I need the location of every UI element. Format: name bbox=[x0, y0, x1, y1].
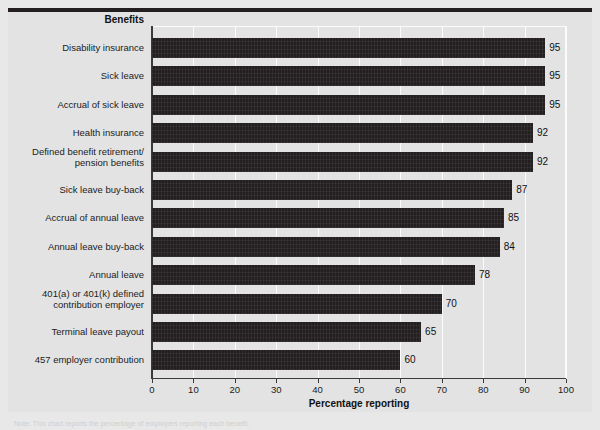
x-tick-label-40: 40 bbox=[298, 384, 338, 395]
x-tick-label-30: 30 bbox=[256, 384, 296, 395]
x-tick-label-60: 60 bbox=[380, 384, 420, 395]
bar bbox=[152, 237, 500, 257]
row-header-benefits: Benefits bbox=[4, 14, 144, 25]
x-tick-label-90: 90 bbox=[505, 384, 545, 395]
category-label: Annual leave bbox=[4, 269, 144, 280]
category-label: Accrual of sick leave bbox=[4, 99, 144, 110]
category-label: Health insurance bbox=[4, 127, 144, 138]
bar bbox=[152, 152, 533, 172]
bar bbox=[152, 123, 533, 143]
category-label: Terminal leave payout bbox=[4, 326, 144, 337]
x-tick-label-70: 70 bbox=[422, 384, 462, 395]
x-tick-label-20: 20 bbox=[215, 384, 255, 395]
x-tick-90 bbox=[525, 379, 526, 383]
category-label: Defined benefit retirement/ pension bene… bbox=[4, 146, 144, 168]
gridline-100 bbox=[566, 26, 567, 378]
category-label: Sick leave bbox=[4, 70, 144, 81]
x-tick-20 bbox=[235, 379, 236, 383]
x-tick-80 bbox=[483, 379, 484, 383]
x-tick-40 bbox=[318, 379, 319, 383]
bar-value-label: 84 bbox=[504, 237, 515, 257]
category-label: Accrual of annual leave bbox=[4, 212, 144, 223]
category-label: 401(a) or 401(k) defined contribution em… bbox=[4, 288, 144, 310]
bar-value-label: 65 bbox=[425, 322, 436, 342]
x-tick-100 bbox=[566, 379, 567, 383]
category-label: Annual leave buy-back bbox=[4, 241, 144, 252]
bar bbox=[152, 208, 504, 228]
x-tick-0 bbox=[152, 379, 153, 383]
bar-value-label: 95 bbox=[549, 95, 560, 115]
category-label: Disability insurance bbox=[4, 42, 144, 53]
bar bbox=[152, 322, 421, 342]
bar bbox=[152, 38, 545, 58]
bar-value-label: 78 bbox=[479, 265, 490, 285]
bar bbox=[152, 95, 545, 115]
bar bbox=[152, 294, 442, 314]
bar bbox=[152, 350, 400, 370]
x-tick-10 bbox=[193, 379, 194, 383]
category-label: Sick leave buy-back bbox=[4, 184, 144, 195]
x-tick-label-10: 10 bbox=[173, 384, 213, 395]
bar bbox=[152, 180, 512, 200]
x-tick-label-100: 100 bbox=[546, 384, 586, 395]
figure-footnote: Note: This chart reports the percentage … bbox=[14, 420, 574, 428]
bar bbox=[152, 66, 545, 86]
bar bbox=[152, 265, 475, 285]
x-tick-label-50: 50 bbox=[339, 384, 379, 395]
bar-value-label: 70 bbox=[446, 294, 457, 314]
chart-page: Benefits Disability insurance95Sick leav… bbox=[0, 0, 600, 430]
x-tick-70 bbox=[442, 379, 443, 383]
x-tick-60 bbox=[400, 379, 401, 383]
bar-value-label: 85 bbox=[508, 208, 519, 228]
category-label: 457 employer contribution bbox=[4, 354, 144, 365]
bar-value-label: 87 bbox=[516, 180, 527, 200]
x-tick-label-0: 0 bbox=[132, 384, 172, 395]
bar-value-label: 95 bbox=[549, 66, 560, 86]
bar-value-label: 60 bbox=[404, 350, 415, 370]
bar-value-label: 95 bbox=[549, 38, 560, 58]
x-tick-50 bbox=[359, 379, 360, 383]
x-axis-title: Percentage reporting bbox=[152, 398, 566, 409]
bar-value-label: 92 bbox=[537, 152, 548, 172]
bar-value-label: 92 bbox=[537, 123, 548, 143]
x-tick-30 bbox=[276, 379, 277, 383]
x-tick-label-80: 80 bbox=[463, 384, 503, 395]
